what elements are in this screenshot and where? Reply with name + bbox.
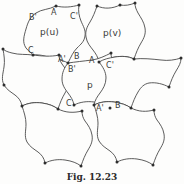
vertex-dot	[152, 164, 155, 167]
edge-c-bottom: C	[66, 100, 72, 108]
vertex-dot	[3, 84, 6, 87]
edge-b-prime-mid: B'	[68, 66, 76, 74]
vertex-dot	[116, 161, 119, 164]
vertex-dot	[73, 104, 76, 107]
vertex-dot	[57, 108, 60, 111]
vertex-dot	[96, 5, 99, 8]
vertex-dot	[2, 48, 5, 51]
edge-b-mid: B	[74, 53, 80, 61]
edge-a-prime-mid: A'	[58, 56, 66, 64]
edge-c-left: C	[28, 47, 34, 55]
edge-c-prime-top: C'	[70, 13, 78, 21]
cell-p: p	[87, 81, 93, 90]
vertex-dot	[134, 2, 137, 5]
vertex-dot	[110, 52, 113, 55]
edge-c-prime-mid: C'	[106, 62, 114, 70]
vertex-dot	[130, 107, 133, 110]
cell-pv: p(v)	[103, 29, 121, 38]
vertex-dot	[168, 86, 171, 89]
vertex-dot	[21, 105, 24, 108]
vertex-dot	[81, 110, 84, 113]
cell-pu: p(u)	[40, 28, 59, 37]
vertex-dot	[133, 58, 136, 61]
vertex-dot	[109, 107, 112, 110]
edge-a-mid: A	[89, 57, 95, 65]
tessellation-diagram	[0, 0, 184, 184]
edge-a-top: A	[51, 9, 57, 17]
vertex-dot	[119, 4, 122, 7]
figure-caption: Fig. 12.23	[0, 172, 184, 182]
edge-b-bottom: B	[115, 102, 121, 110]
vertex-dot	[80, 165, 83, 168]
vertex-dot	[153, 109, 156, 112]
vertex-dot	[180, 57, 183, 60]
edge-b-prime-top: B'	[29, 14, 37, 22]
vertex-dot	[98, 61, 101, 64]
vertex-dot	[78, 4, 81, 7]
edge-a-prime-bottom: A'	[96, 105, 104, 113]
figure-container: B'AC'CA'BAB'C'CA'B p(u)p(v)p Fig. 12.23	[0, 0, 184, 184]
vertex-dot	[44, 162, 47, 165]
